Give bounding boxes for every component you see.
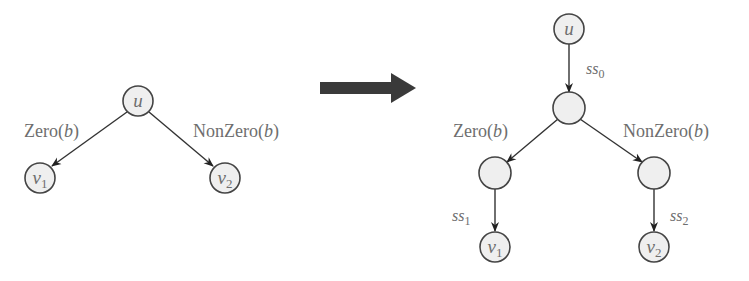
- node-u-label: u: [133, 90, 143, 111]
- graph-transformation-diagram: u v1 v2 Zero(b) NonZero(b) u v1 v2 ss0 Z…: [0, 0, 749, 281]
- edge-ss0-label: ss0: [586, 60, 604, 81]
- left-graph: u v1 v2 Zero(b) NonZero(b): [24, 86, 279, 193]
- transform-arrow-icon: [320, 73, 416, 103]
- edge-nonzero-label: NonZero(b): [623, 121, 709, 142]
- right-graph: u v1 v2 ss0 Zero(b) NonZero(b) ss1 ss2: [452, 14, 709, 262]
- edge-zero: [507, 119, 558, 162]
- edge-ss1-label: ss1: [452, 207, 470, 228]
- node-intermediate-top: [553, 92, 585, 124]
- node-intermediate-left: [479, 157, 511, 189]
- edge-ss2-label: ss2: [670, 207, 688, 228]
- node-intermediate-right: [638, 157, 670, 189]
- node-u-label: u: [564, 18, 574, 39]
- edge-zero-label: Zero(b): [453, 121, 508, 142]
- edge-zero-label: Zero(b): [24, 121, 79, 142]
- edge-nonzero-label: NonZero(b): [193, 121, 279, 142]
